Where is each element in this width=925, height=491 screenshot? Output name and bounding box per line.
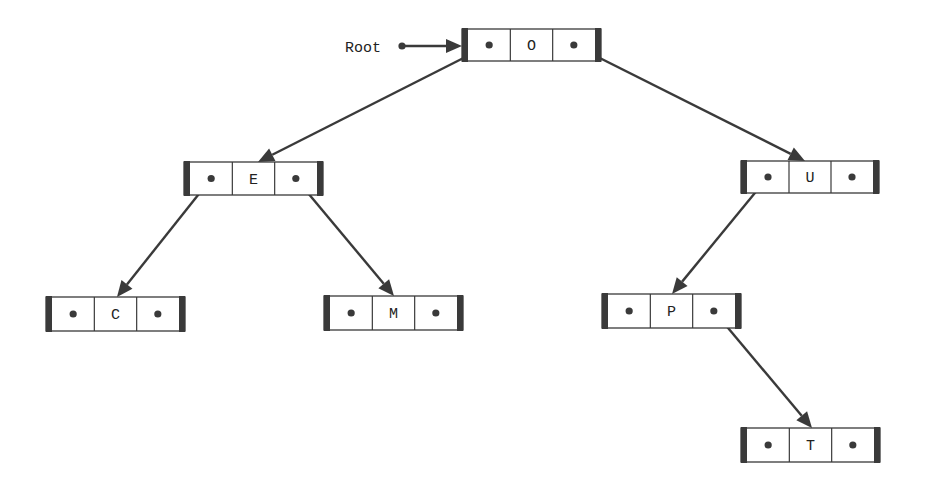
edge-line: [272, 45, 489, 155]
arrowhead-icon: [117, 280, 132, 297]
node-right-end-bar: [874, 427, 880, 463]
right-pointer-dot-icon: [292, 175, 299, 182]
edge-E-C: [117, 179, 211, 298]
node-right-end-bar: [595, 28, 601, 62]
edge-O-E: [258, 45, 489, 162]
node-left-end-bar: [324, 295, 330, 331]
node-right-end-bar: [317, 161, 323, 196]
node-key-label: T: [806, 438, 815, 455]
right-pointer-dot-icon: [848, 173, 855, 180]
root-pointer: Root: [345, 39, 462, 57]
edges-layer: [117, 45, 812, 428]
root-label: Root: [345, 40, 381, 57]
tree-node-E: E: [184, 161, 323, 196]
left-pointer-dot-icon: [765, 441, 772, 448]
node-key-label: U: [805, 170, 814, 187]
node-right-end-bar: [457, 295, 463, 331]
arrowhead-icon: [446, 39, 462, 53]
bst-diagram: OEUCMPT Root: [0, 0, 925, 491]
right-pointer-dot-icon: [432, 309, 439, 316]
node-right-end-bar: [735, 293, 741, 329]
nodes-layer: OEUCMPT: [46, 28, 880, 463]
tree-node-T: T: [741, 427, 880, 463]
node-key-label: C: [111, 307, 120, 324]
node-key-label: E: [249, 172, 258, 189]
tree-node-M: M: [324, 295, 463, 331]
node-left-end-bar: [741, 160, 747, 194]
node-key-label: M: [389, 306, 398, 323]
edge-O-U: [574, 45, 805, 161]
left-pointer-dot-icon: [764, 173, 771, 180]
right-pointer-dot-icon: [154, 310, 161, 317]
tree-node-P: P: [602, 293, 741, 329]
node-left-end-bar: [46, 296, 52, 332]
left-pointer-dot-icon: [70, 310, 77, 317]
node-left-end-bar: [741, 427, 747, 463]
node-left-end-bar: [462, 28, 468, 62]
tree-node-U: U: [741, 160, 879, 194]
tree-node-O: O: [462, 28, 601, 62]
left-pointer-dot-icon: [348, 309, 355, 316]
node-left-end-bar: [602, 293, 608, 329]
node-key-label: O: [527, 38, 536, 55]
left-pointer-dot-icon: [208, 175, 215, 182]
right-pointer-dot-icon: [570, 41, 577, 48]
right-pointer-dot-icon: [849, 441, 856, 448]
left-pointer-dot-icon: [626, 307, 633, 314]
node-key-label: P: [667, 304, 676, 321]
node-right-end-bar: [873, 160, 879, 194]
node-left-end-bar: [184, 161, 190, 196]
right-pointer-dot-icon: [710, 307, 717, 314]
tree-node-C: C: [46, 296, 185, 332]
edge-U-P: [672, 177, 768, 294]
edge-E-M: [296, 179, 394, 297]
node-right-end-bar: [179, 296, 185, 332]
left-pointer-dot-icon: [486, 41, 493, 48]
edge-line: [574, 45, 791, 154]
